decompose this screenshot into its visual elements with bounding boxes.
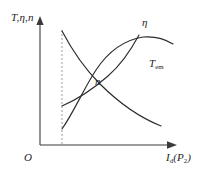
n-curve xyxy=(62,31,161,126)
tem-curve-label-sub: em xyxy=(155,63,164,70)
eta-curve xyxy=(62,37,173,129)
chart-canvas xyxy=(0,0,212,174)
x-axis-label: Id(P2) xyxy=(166,152,191,163)
x-axis-label-power-main: P xyxy=(177,151,184,163)
y-axis-arrow-icon xyxy=(36,16,43,25)
n-curve-label: n xyxy=(95,76,101,87)
x-axis-label-current-sub: d xyxy=(170,157,174,164)
x-axis-label-paren-close: ) xyxy=(187,151,191,163)
y-axis-label: T,η,n xyxy=(11,12,34,23)
eta-curve-label: η xyxy=(142,17,147,28)
x-axis-arrow-icon xyxy=(167,141,177,148)
tem-curve-label: Tem xyxy=(149,58,164,69)
tem-curve xyxy=(62,35,139,106)
origin-label: O xyxy=(24,152,32,163)
motor-characteristic-chart: T,η,n Id(P2) O η n Tem xyxy=(0,0,212,174)
x-axis-label-power-sub: 2 xyxy=(184,157,188,164)
